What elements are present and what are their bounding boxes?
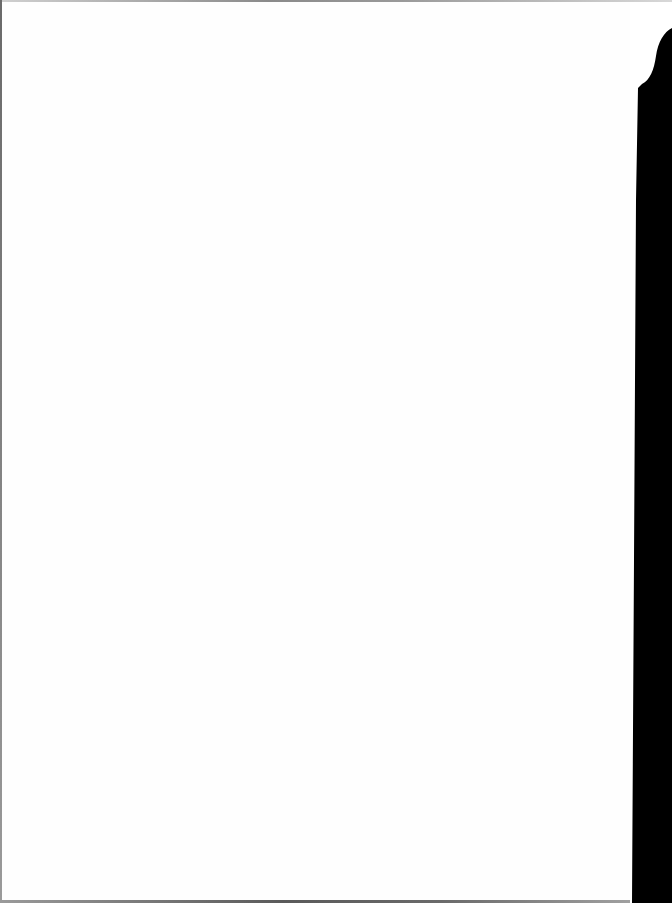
- top-edge: [0, 0, 672, 2]
- blank-page: [0, 0, 672, 903]
- dark-edge-region: [628, 0, 672, 903]
- left-edge: [0, 0, 2, 903]
- blank-sheet: [2, 2, 630, 900]
